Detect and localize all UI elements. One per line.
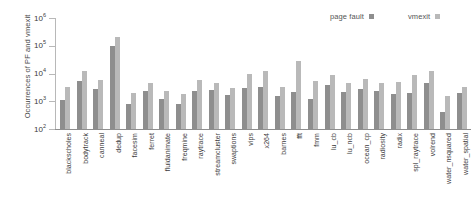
x-axis-label: dedup	[115, 133, 122, 153]
x-axis-label-cell: ferret	[140, 131, 157, 219]
bar-group	[156, 18, 173, 129]
bar-vmexit	[429, 71, 434, 129]
x-axis-label: water_spatial	[462, 133, 469, 175]
x-axis-label-cell: volrend	[420, 131, 437, 219]
x-axis-label: raytrace	[197, 133, 204, 159]
x-axis-label: streamcluster	[214, 133, 221, 176]
x-axis-label-cell: freqmine	[173, 131, 190, 219]
x-axis-label-cell: facesim	[123, 131, 140, 219]
bar-group	[255, 18, 272, 129]
x-axis-label: radix	[396, 133, 403, 148]
x-axis-label: x264	[263, 133, 270, 148]
bar-vmexit	[82, 71, 87, 129]
x-axis-label-cell: barnes	[272, 131, 289, 219]
x-axis-label: barnes	[280, 133, 287, 155]
x-axis-label: blackscholes	[65, 133, 72, 174]
bar-group	[189, 18, 206, 129]
bar-vmexit	[148, 83, 153, 129]
bar-group	[420, 18, 437, 129]
y-axis-tick-label: 105	[34, 42, 46, 50]
x-axis-label: radiosity	[379, 133, 386, 160]
y-axis-tick-label: 104	[34, 70, 46, 78]
bar-group	[437, 18, 454, 129]
x-axis-label-cell: water_spatial	[453, 131, 470, 219]
x-axis-label-cell: vips	[239, 131, 256, 219]
bar-group	[404, 18, 421, 129]
x-axis-label-cell: ocean_cp	[354, 131, 371, 219]
x-axis-label-cell: raytrace	[189, 131, 206, 219]
bar-group	[90, 18, 107, 129]
bar-vmexit	[462, 87, 467, 129]
bar-vmexit	[181, 94, 186, 129]
bar-chart: page fault vmexit Occurrences of PF and …	[0, 0, 476, 222]
x-axis-label-cell: water_nsquared	[437, 131, 454, 219]
x-axis-label-cell: canneal	[90, 131, 107, 219]
x-axis-label: lu_cb	[330, 133, 337, 150]
bar-vmexit	[164, 91, 169, 129]
x-axis-label: swaptions	[230, 133, 237, 165]
bar-group	[371, 18, 388, 129]
bar-vmexit	[412, 75, 417, 129]
x-axis-label-cell: x264	[255, 131, 272, 219]
x-axis-label: freqmine	[181, 133, 188, 161]
bar-vmexit	[280, 87, 285, 129]
bar-group	[57, 18, 74, 129]
bar-group	[338, 18, 355, 129]
bar-group	[74, 18, 91, 129]
bar-vmexit	[197, 80, 202, 129]
bar-group	[239, 18, 256, 129]
x-axis-label: facesim	[131, 133, 138, 157]
y-axis-tick-label: 106	[34, 15, 46, 23]
x-axis-label: lu_ncb	[346, 133, 353, 154]
bar-group	[173, 18, 190, 129]
x-axis-label-cell: swaptions	[222, 131, 239, 219]
bar-vmexit	[65, 87, 70, 129]
y-axis-title: Occurrences of PF and vmexit	[23, 0, 32, 137]
x-axis-label: fmm	[313, 133, 320, 147]
bar-group	[222, 18, 239, 129]
x-axis-label-cell: fluidanimate	[156, 131, 173, 219]
x-axis-label: canneal	[98, 133, 105, 158]
bar-group	[453, 18, 470, 129]
bar-group	[272, 18, 289, 129]
bar-group	[123, 18, 140, 129]
x-axis-line	[55, 129, 471, 130]
bar-vmexit	[214, 83, 219, 129]
x-axis-label-cell: fmm	[305, 131, 322, 219]
x-axis-label: water_nsquared	[445, 133, 452, 184]
y-axis-tick-label: 102	[34, 126, 46, 134]
bar-vmexit	[230, 88, 235, 129]
bar-vmexit	[263, 71, 268, 129]
bar-vmexit	[115, 37, 120, 129]
x-axis-label-cell: dedup	[107, 131, 124, 219]
x-axis-label: fluidanimate	[164, 133, 171, 171]
x-axis-label-cell: streamcluster	[206, 131, 223, 219]
x-axis-label-cell: radix	[387, 131, 404, 219]
bar-vmexit	[131, 93, 136, 129]
bar-group	[107, 18, 124, 129]
x-axis-label: volrend	[429, 133, 436, 156]
bar-vmexit	[330, 75, 335, 129]
bar-vmexit	[98, 80, 103, 129]
bar-vmexit	[396, 82, 401, 129]
x-axis-labels: blackscholesbodytrackcannealdedupfacesim…	[55, 131, 470, 219]
bar-group	[321, 18, 338, 129]
bar-vmexit	[379, 83, 384, 129]
bar-vmexit	[296, 61, 301, 129]
x-axis-label: bodytrack	[82, 133, 89, 164]
bar-vmexit	[247, 74, 252, 129]
bar-vmexit	[313, 81, 318, 129]
x-axis-label: ocean_cp	[363, 133, 370, 164]
y-axis-tick-label: 103	[34, 98, 46, 106]
bar-vmexit	[346, 83, 351, 129]
bar-vmexit	[445, 96, 450, 129]
x-axis-label-cell: lu_cb	[321, 131, 338, 219]
bar-group	[288, 18, 305, 129]
bar-group	[206, 18, 223, 129]
x-axis-label-cell: fft	[288, 131, 305, 219]
x-axis-label-cell: lu_ncb	[338, 131, 355, 219]
x-axis-label: ferret	[148, 133, 155, 150]
bar-series-container	[55, 18, 470, 129]
y-axis-tick: 102	[49, 129, 55, 130]
x-axis-label-cell: radiosity	[371, 131, 388, 219]
